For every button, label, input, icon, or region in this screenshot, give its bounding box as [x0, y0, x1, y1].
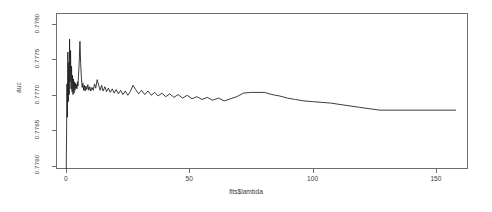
y-tick-mark [52, 166, 56, 167]
y-axis-title: auc [15, 68, 22, 108]
y-tick-label: 0.7765 [33, 115, 40, 145]
x-tick-mark [66, 169, 67, 173]
auc-curve-path [66, 39, 455, 169]
y-tick-label: 0.7780 [33, 8, 40, 38]
x-tick-label: 0 [46, 175, 86, 182]
x-tick-label: 50 [169, 175, 209, 182]
y-tick-label: 0.7770 [33, 79, 40, 109]
y-tick-label: 0.7760 [33, 150, 40, 180]
y-tick-mark [52, 24, 56, 25]
x-tick-mark [313, 169, 314, 173]
x-tick-label: 100 [293, 175, 333, 182]
x-axis-title: fits$lambda [0, 188, 492, 195]
chart-figure: auc fits$lambda 0.77600.77650.77700.7775… [0, 0, 492, 212]
x-tick-label: 150 [416, 175, 456, 182]
y-tick-mark [52, 130, 56, 131]
auc-line-series [56, 13, 468, 169]
x-tick-mark [189, 169, 190, 173]
y-tick-mark [52, 59, 56, 60]
y-tick-label: 0.7775 [33, 44, 40, 74]
y-tick-mark [52, 95, 56, 96]
plot-area [56, 13, 468, 169]
x-tick-mark [436, 169, 437, 173]
